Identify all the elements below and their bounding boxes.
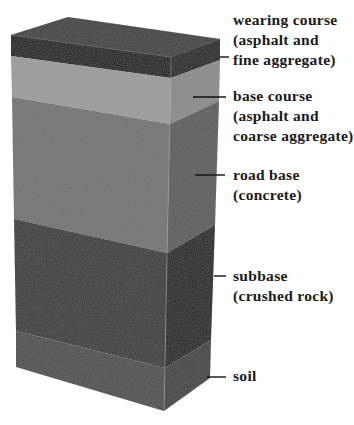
- base-course-label: base course (asphalt and coarse aggregat…: [233, 86, 354, 146]
- wearing-course-desc-2: fine aggregate): [233, 50, 338, 70]
- wearing-course-label: wearing course (asphalt and fine aggrega…: [233, 10, 338, 70]
- road-base-label: road base (concrete): [233, 165, 302, 205]
- road-base-title: road base: [233, 165, 302, 185]
- wearing-course-title: wearing course: [233, 10, 338, 30]
- base-course-desc-1: (asphalt and: [233, 106, 354, 126]
- subbase-label: subbase (crushed rock): [233, 266, 334, 306]
- base-course-desc-2: coarse aggregate): [233, 126, 354, 146]
- base-course-title: base course: [233, 86, 354, 106]
- road-base-desc: (concrete): [233, 185, 302, 205]
- soil-title: soil: [233, 366, 257, 386]
- subbase-desc: (crushed rock): [233, 286, 334, 306]
- soil-label: soil: [233, 366, 257, 386]
- wearing-course-desc-1: (asphalt and: [233, 30, 338, 50]
- subbase-title: subbase: [233, 266, 334, 286]
